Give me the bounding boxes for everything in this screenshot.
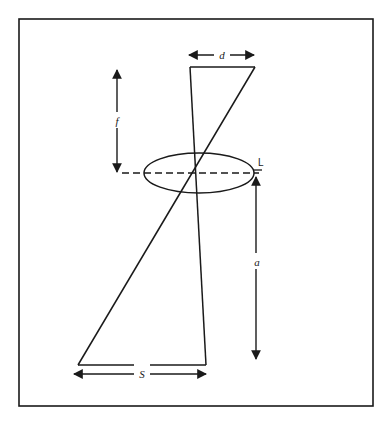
dimension-label-d: d	[219, 49, 225, 61]
figure-container: d f a S L	[0, 0, 390, 427]
dimension-label-a: a	[254, 256, 260, 268]
label-L: L	[258, 157, 264, 168]
dimension-label-S: S	[139, 368, 145, 380]
beam-geometry-diagram: d f a S L	[0, 0, 390, 427]
page-background	[0, 0, 390, 427]
